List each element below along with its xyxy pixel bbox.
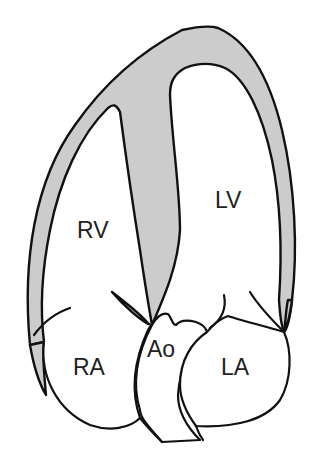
label-la: LA <box>221 354 250 380</box>
label-ao: Ao <box>147 336 175 362</box>
label-rv: RV <box>77 217 109 243</box>
label-ra: RA <box>73 354 106 380</box>
heart-diagram: RV LV RA LA Ao <box>0 0 322 463</box>
tricuspid-leaflet-septal <box>112 292 150 325</box>
label-lv: LV <box>215 187 242 213</box>
myocardium-wall <box>28 27 295 345</box>
